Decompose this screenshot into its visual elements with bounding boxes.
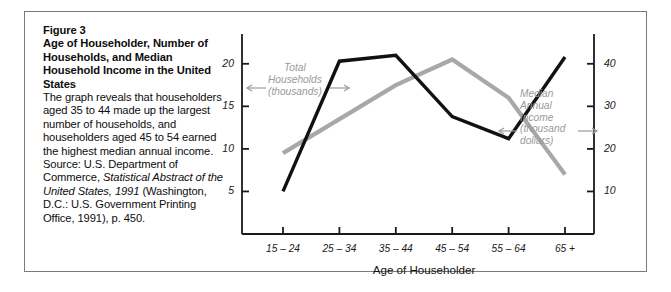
annotation-line: (thousand	[520, 123, 565, 135]
annotation-line: Median	[520, 88, 565, 100]
y-axis-right-tick-label: 30	[604, 99, 616, 111]
annotation-line: (thousands)	[268, 86, 322, 98]
y-axis-right-tick-label: 20	[604, 142, 616, 154]
x-axis-tick-label: 55 – 64	[492, 243, 526, 254]
caption-part-1: The graph reveals that householders aged…	[43, 91, 222, 183]
annotation-line: Income	[520, 112, 565, 124]
annotation-line: Annual	[520, 100, 565, 112]
annotation-line: Households	[268, 74, 322, 86]
y-axis-left-tick-label: 5	[196, 184, 234, 196]
x-axis-tick-label: 15 – 24	[266, 243, 300, 254]
annotation-line: Total	[268, 62, 322, 74]
median-income-annotation: MedianAnnualIncome(thousanddollars)	[520, 88, 565, 147]
total-households-annotation: TotalHouseholds(thousands)	[268, 62, 322, 97]
annotation-line: dollars)	[520, 135, 565, 147]
x-axis-tick-label: 45 – 54	[435, 243, 469, 254]
x-axis-title: Age of Householder	[373, 263, 475, 276]
y-axis-left-tick-label: 15	[196, 99, 234, 111]
x-axis-tick-label: 65 +	[555, 243, 575, 254]
figure-label: Figure 3	[43, 24, 223, 37]
y-axis-left-tick-label: 20	[196, 57, 234, 69]
y-axis-left-tick-label: 10	[196, 142, 234, 154]
x-axis-tick-label: 25 – 34	[322, 243, 356, 254]
y-axis-right-tick-label: 40	[604, 57, 616, 69]
figure-container: Figure 3 Age of Householder, Number of H…	[0, 0, 671, 292]
x-axis-tick-label: 35 – 44	[379, 243, 413, 254]
y-axis-right-tick-label: 10	[604, 184, 616, 196]
